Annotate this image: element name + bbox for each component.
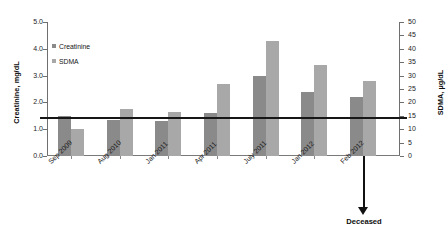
legend-label: Creatinine: [59, 43, 90, 50]
bar-sdma: [314, 65, 327, 156]
y-axis-right-tick-label: 45: [408, 31, 416, 39]
y-axis-right-tick-mark: [400, 156, 404, 157]
reference-line: [40, 117, 407, 119]
x-axis-tick-mark: [217, 156, 218, 159]
y-axis-right-tick-label: 15: [408, 112, 416, 120]
y-axis-right-tick-label: 35: [408, 58, 416, 66]
legend-item-creatinine: Creatinine: [52, 40, 90, 52]
y-axis-right-ticks: 05101520253035404550: [400, 0, 448, 232]
legend: Creatinine SDMA: [52, 40, 90, 70]
y-axis-right-tick-mark: [400, 62, 404, 63]
y-axis-right-tick-mark: [400, 35, 404, 36]
y-axis-right-tick-label: 0: [408, 152, 412, 160]
y-axis-right-tick-mark: [400, 76, 404, 77]
bar-sdma: [266, 41, 279, 156]
y-axis-right-tick-label: 10: [408, 125, 416, 133]
y-axis-right-tick-label: 50: [408, 18, 416, 26]
x-axis-tick-mark: [314, 156, 315, 159]
x-axis-tick-mark: [266, 156, 267, 159]
deceased-label: Deceased: [330, 217, 398, 226]
y-axis-right-tick-label: 25: [408, 85, 416, 93]
y-axis-right-tick-mark: [400, 22, 404, 23]
legend-swatch-icon: [52, 44, 56, 48]
y-axis-left-tick-mark: [43, 156, 47, 157]
chart-container: Creatinine, mg/dL SDMA, µg/dL 0.01.02.03…: [0, 0, 448, 232]
y-axis-right-tick-label: 40: [408, 45, 416, 53]
y-axis-left-ticks: 0.01.02.03.04.05.0: [0, 0, 47, 232]
deceased-arrowhead-icon: [358, 207, 368, 215]
x-axis-tick-mark: [120, 156, 121, 159]
x-axis-tick-mark: [168, 156, 169, 159]
legend-swatch-icon: [52, 59, 56, 63]
deceased-arrow-icon: [363, 156, 365, 210]
legend-label: SDMA: [59, 58, 79, 65]
y-axis-right-tick-label: 30: [408, 72, 416, 80]
y-axis-right-tick-label: 5: [408, 139, 412, 147]
y-axis-left-tick-label: 1.0: [33, 125, 43, 133]
y-axis-left-tick-label: 4.0: [33, 45, 43, 53]
y-axis-left-tick-label: 2.0: [33, 98, 43, 106]
y-axis-left-tick-label: 0.0: [33, 152, 43, 160]
y-axis-right-tick-mark: [400, 143, 404, 144]
y-axis-right-tick-mark: [400, 102, 404, 103]
y-axis-right-tick-label: 20: [408, 98, 416, 106]
legend-item-sdma: SDMA: [52, 55, 90, 67]
y-axis-right-tick-mark: [400, 129, 404, 130]
x-axis-tick-mark: [71, 156, 72, 159]
bar-sdma: [71, 129, 84, 156]
plot-area: [47, 22, 387, 156]
y-axis-left-tick-label: 3.0: [33, 72, 43, 80]
y-axis-right-tick-mark: [400, 89, 404, 90]
y-axis-right-tick-mark: [400, 49, 404, 50]
bar-sdma: [217, 84, 230, 156]
y-axis-left-tick-label: 5.0: [33, 18, 43, 26]
